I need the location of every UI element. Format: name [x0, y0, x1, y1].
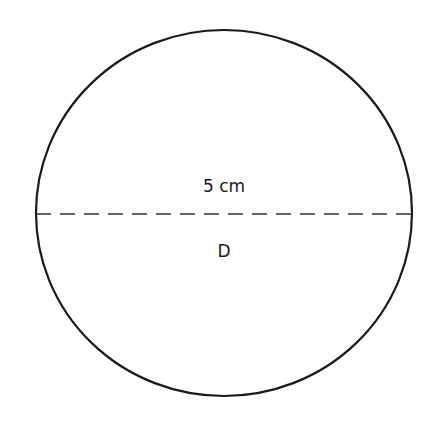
diameter-label: D	[217, 241, 230, 261]
measurement-label: 5 cm	[203, 176, 245, 196]
circle-diagram	[0, 0, 434, 435]
circle-outline	[36, 30, 412, 396]
